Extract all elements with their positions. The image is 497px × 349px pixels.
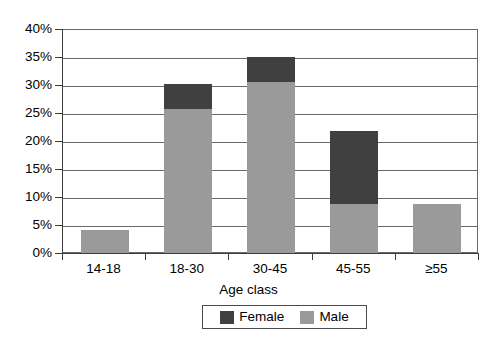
- y-axis-tick: [55, 57, 62, 58]
- legend-label-male: Male: [319, 310, 348, 324]
- y-axis-line: [62, 29, 63, 254]
- bar-segment-female: [247, 57, 295, 82]
- bar-segment-male: [330, 204, 378, 254]
- bar-segment-female: [164, 84, 212, 109]
- x-axis-tick: [145, 254, 146, 260]
- x-axis-label: 14-18: [62, 262, 145, 276]
- legend-swatch-male: [300, 311, 314, 324]
- x-axis-tick: [62, 254, 63, 260]
- y-axis-label: 15%: [4, 162, 52, 176]
- x-axis-line: [62, 253, 479, 254]
- bar-segment-male: [413, 204, 461, 254]
- x-axis-label: 45-55: [312, 262, 395, 276]
- bar-segment-female: [330, 131, 378, 204]
- y-axis-label: 35%: [4, 50, 52, 64]
- y-axis-tick: [55, 85, 62, 86]
- y-axis-label: 5%: [4, 218, 52, 232]
- legend-swatch-female: [220, 311, 234, 324]
- x-axis-label: 30-45: [228, 262, 311, 276]
- y-axis-label: 0%: [4, 246, 52, 260]
- y-axis-tick: [55, 113, 62, 114]
- y-axis-tick: [55, 197, 62, 198]
- x-axis-tick: [312, 254, 313, 260]
- x-axis-label: ≥55: [395, 262, 478, 276]
- legend-item-female: Female: [220, 310, 284, 324]
- bar-segment-male: [164, 109, 212, 254]
- y-axis-label: 25%: [4, 106, 52, 120]
- legend-item-male: Male: [300, 310, 348, 324]
- y-axis-tick: [55, 169, 62, 170]
- plot-area: [62, 29, 478, 253]
- x-axis-tick: [395, 254, 396, 260]
- y-axis-label: 10%: [4, 190, 52, 204]
- x-axis-label: 18-30: [145, 262, 228, 276]
- bar-segment-male: [81, 230, 129, 254]
- legend-label-female: Female: [239, 310, 284, 324]
- legend: Female Male: [202, 305, 367, 329]
- x-axis-tick: [478, 254, 479, 260]
- bar-segment-male: [247, 82, 295, 254]
- y-axis-tick: [55, 225, 62, 226]
- y-axis-label: 20%: [4, 134, 52, 148]
- y-axis-tick: [55, 141, 62, 142]
- x-axis-tick: [228, 254, 229, 260]
- y-axis-label: 30%: [4, 78, 52, 92]
- x-axis-title: Age class: [0, 283, 497, 297]
- y-axis-label: 40%: [4, 22, 52, 36]
- y-axis-tick: [55, 253, 62, 254]
- stacked-bar-chart: 0%5%10%15%20%25%30%35%40% 14-1818-3030-4…: [0, 0, 497, 349]
- y-axis-tick: [55, 29, 62, 30]
